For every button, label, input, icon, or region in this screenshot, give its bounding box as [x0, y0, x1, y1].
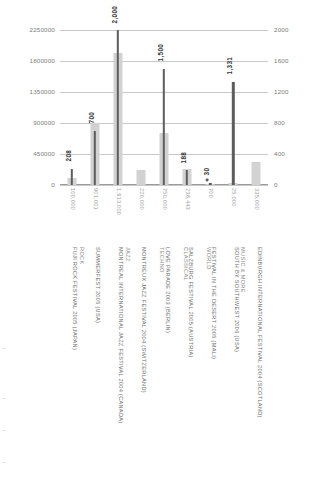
- bar-group[interactable]: 30: [199, 30, 222, 185]
- edge-tick: [2, 462, 5, 463]
- bar-performers[interactable]: [209, 183, 211, 185]
- bar-value-label: 700: [88, 112, 94, 124]
- bar-performers[interactable]: [70, 169, 72, 185]
- bar-performers[interactable]: [117, 30, 119, 185]
- bar-group[interactable]: 1,500: [152, 30, 175, 185]
- y-axis-left-tick-label: 1800000: [30, 58, 56, 64]
- gridline: [60, 185, 268, 186]
- bar-performers[interactable]: [232, 82, 234, 185]
- bar-group[interactable]: [245, 30, 268, 185]
- bar-value-label: 2,000: [111, 6, 117, 24]
- bar-value-label: 188: [181, 152, 187, 164]
- bar-performers[interactable]: [163, 69, 165, 185]
- bar-value-label: 208: [65, 150, 71, 162]
- x-axis-value-label: 220,000: [138, 188, 144, 210]
- bar-performers[interactable]: [186, 170, 188, 185]
- x-axis-group-label: ROCK: [78, 247, 84, 265]
- edge-tick: [2, 430, 5, 431]
- x-axis-category-label: MONTREUX JAZZ FESTIVAL 2004 (SWITZERLAND…: [141, 247, 147, 393]
- y-axis-right-tick-label: 0: [274, 182, 278, 188]
- x-axis-value-label: 750,000: [161, 188, 167, 210]
- x-axis-value-label: 335,000: [254, 188, 260, 210]
- chart-figure: 0045000040090000080013500001200180000016…: [0, 0, 329, 491]
- x-axis-category-label: FUJI ROCK FESTIVAL 2005 (JAPAN): [71, 247, 77, 350]
- x-axis-category-label: SUMMERFEST 2005 (USA): [94, 247, 100, 323]
- x-axis-group-label: MUSIC & MORE: [239, 247, 245, 293]
- x-axis-category-label: EDINBURGH INTERNATIONAL FESTIVAL 2004 (S…: [256, 247, 262, 418]
- bar-group[interactable]: 208: [60, 30, 83, 185]
- bar-group[interactable]: 700: [83, 30, 106, 185]
- bar-group[interactable]: 1,331: [222, 30, 245, 185]
- x-axis-group-label: WORLD: [205, 247, 211, 270]
- x-axis-value-label: 901,001: [92, 188, 98, 210]
- x-axis-value-labels: 100,000901,0011,913,000220,000750,000238…: [60, 188, 268, 240]
- x-axis-category-label: MONTREAL INTERNATIONAL JAZZ FESTIVAL 200…: [118, 247, 124, 423]
- bar-value-label: 1,500: [158, 44, 164, 62]
- edge-tick: [2, 348, 5, 349]
- x-axis-value-label: 25,000: [231, 188, 237, 207]
- plot-area: 0045000040090000080013500001200180000016…: [60, 30, 268, 185]
- bar-group[interactable]: 2,000: [106, 30, 129, 185]
- y-axis-left-tick-label: 900000: [33, 120, 55, 126]
- bar-attendance[interactable]: [252, 162, 261, 185]
- bar-group[interactable]: 188: [176, 30, 199, 185]
- x-axis-group-label: TECHNO: [159, 247, 165, 273]
- x-axis-value-label: 238,443: [184, 188, 190, 210]
- x-axis-category-labels: FUJI ROCK FESTIVAL 2005 (JAPAN)SUMMERFES…: [60, 247, 268, 491]
- y-axis-right-tick-label: 400: [274, 151, 285, 157]
- bar-attendance[interactable]: [136, 170, 145, 185]
- y-axis-right-tick-label: 1600: [274, 58, 289, 64]
- y-axis-right-tick-label: 1200: [274, 89, 289, 95]
- x-axis-value-label: 700: [207, 188, 213, 198]
- x-axis-value-label: 1,913,000: [115, 188, 121, 215]
- y-axis-right-tick-label: 800: [274, 120, 285, 126]
- x-axis-group-label: CLASSICAL: [182, 247, 188, 281]
- edge-tick: [2, 398, 5, 399]
- x-axis-value-label: 100,000: [69, 188, 75, 210]
- y-axis-left-tick-label: 0: [51, 182, 55, 188]
- x-axis-group-label: JAZZ: [124, 247, 130, 262]
- y-axis-right-tick-label: 2000: [274, 27, 289, 33]
- bar-performers[interactable]: [93, 131, 95, 185]
- y-axis-left-tick-label: 450000: [33, 151, 55, 157]
- bar-value-label: 30: [204, 168, 210, 176]
- bar-value-label: 1,331: [227, 57, 233, 75]
- bar-group[interactable]: [129, 30, 152, 185]
- x-axis-category-label: SOUTH BY SOUTHWEST 2006 (USA): [233, 247, 239, 352]
- y-axis-left-tick-label: 1350000: [30, 89, 56, 95]
- y-axis-left-tick-label: 2250000: [30, 27, 56, 33]
